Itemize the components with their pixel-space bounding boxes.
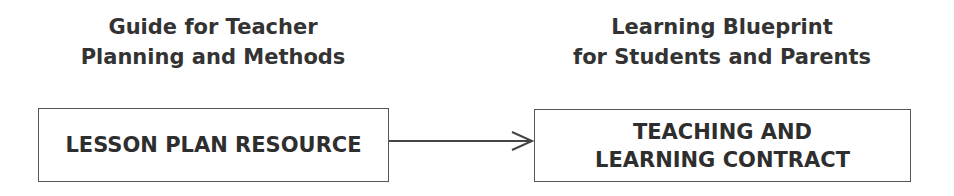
arrow-connector-icon	[0, 0, 954, 196]
